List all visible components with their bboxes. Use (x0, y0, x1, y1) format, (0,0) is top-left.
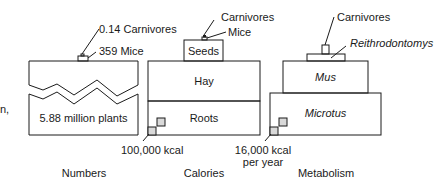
metabolism-scale-square-small (270, 127, 278, 135)
metabolism-scale-label-line2: per year (243, 156, 284, 168)
microtus-label: Microtus (305, 107, 347, 119)
numbers-carnivores-label: 0.14 Carnivores (99, 23, 177, 35)
metabolism-carnivores-box (322, 45, 329, 54)
mice-box (78, 56, 88, 61)
numbers-title: Numbers (62, 167, 107, 179)
roots-label: Roots (190, 112, 219, 124)
metabolism-title: Metabolism (298, 167, 354, 179)
numbers-plants-label: 5.88 million plants (39, 112, 128, 124)
reithrodontomys-box (307, 54, 345, 61)
calories-mice-label: Mice (228, 26, 251, 38)
plants-box-upper (29, 61, 138, 96)
calories-scale-leader-line (143, 134, 149, 141)
mus-label: Mus (315, 71, 336, 83)
calories-title: Calories (184, 167, 225, 179)
metabolism-scale-label-line1: 16,000 kcal (235, 144, 291, 156)
reithrodontomys-label: Reithrodontomys (350, 37, 434, 49)
numbers-mice-label: 359 Mice (99, 45, 144, 57)
mice-leader-line (88, 52, 96, 58)
calories-scale-square-offset (157, 118, 165, 126)
ecological-pyramids-diagram: n, 0.14 Carnivores 359 Mice 5.88 million… (0, 0, 446, 189)
calories-scale-square-small (148, 127, 156, 135)
calories-carnivores-leader-line (204, 20, 214, 35)
calories-scale-label: 100,000 kcal (121, 144, 183, 156)
seeds-label: Seeds (188, 45, 220, 57)
metabolism-scale-square-offset (279, 118, 287, 126)
carnivores-box (81, 54, 84, 56)
metabolism-carnivores-label: Carnivores (337, 11, 391, 23)
calories-carnivores-box (204, 36, 206, 38)
hay-label: Hay (194, 75, 214, 87)
left-fragment-text: n, (0, 103, 9, 115)
calories-mice-leader-line (207, 32, 226, 38)
calories-carnivores-label: Carnivores (221, 11, 275, 23)
reithrodontomys-leader-line (331, 46, 346, 58)
carnivores-leader-line (82, 29, 99, 54)
metabolism-carnivores-leader-line (325, 17, 334, 45)
metabolism-scale-leader-line (265, 134, 271, 141)
